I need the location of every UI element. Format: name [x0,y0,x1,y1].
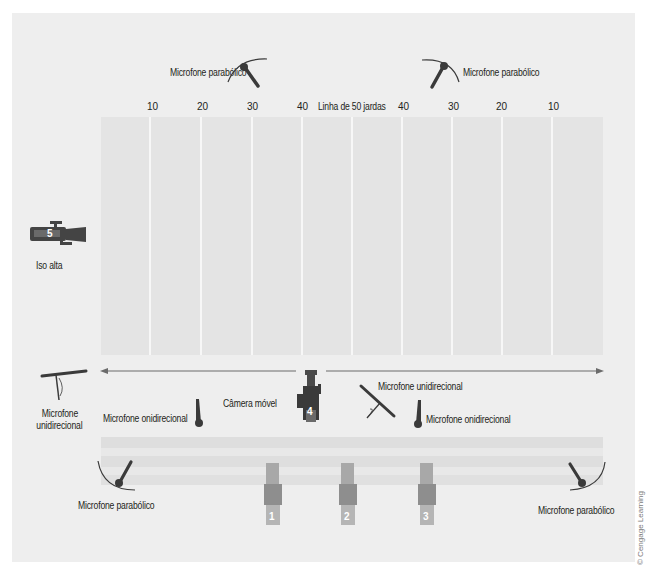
camera-number: 4 [307,407,313,417]
camera-number: 2 [344,512,350,522]
yard-line-10-right [551,117,553,355]
yard-label: 20 [496,101,507,113]
camera-1[interactable]: 1 [264,463,282,527]
unidirectional-mic-icon [38,368,90,408]
yard-line-40-right [401,117,403,355]
yard-line-10 [149,117,151,355]
yard-line-20 [200,117,202,355]
camera-4-mobile[interactable]: 4 [296,370,326,426]
label-parabolic-top-right: Microfone parabólico [463,67,539,79]
omnidirectional-mic-icon [412,399,426,431]
camera-number: 1 [269,512,275,522]
label-unidirectional-left-1: Microfone [35,408,85,420]
label-iso-high: Iso alta [36,260,62,272]
sideline-strip-2 [101,448,603,456]
yard-label: 40 [297,101,308,113]
camera-5-iso-high: 5 [30,220,90,250]
video-camera-icon [30,220,90,250]
label-omni-right: Microfone onidirecional [426,414,510,426]
label-mobile-camera: Câmera móvel [223,398,277,410]
label-unidirectional-left-2: unidirecional [31,420,88,432]
yard-label: 40 [398,101,409,113]
video-camera-icon [296,370,326,426]
omnidirectional-mic-icon [192,398,206,430]
yard-line-20-right [501,117,503,355]
yard-line-50 [351,117,353,355]
football-field [101,117,603,355]
label-omni-left: Microfone onidirecional [103,413,187,425]
camera-3[interactable]: 3 [418,463,436,527]
yard-label: 20 [197,101,208,113]
camera-2[interactable]: 2 [339,463,357,527]
copyright-credit: © Cengage Learning [636,491,645,565]
yard-line-40 [301,117,303,355]
yard-label: 30 [448,101,459,113]
parabolic-mic-icon [95,458,145,496]
camera-track-arrow [100,366,605,376]
camera-number: 5 [47,229,53,239]
yard-line-30 [251,117,253,355]
label-parabolic-bottom-right: Microfone parabólico [538,505,614,517]
yard-line-30-right [451,117,453,355]
camera-number: 3 [423,512,429,522]
yard-label: 30 [247,101,258,113]
unidirectional-mic-icon [358,383,398,423]
parabolic-mic-icon [560,458,610,496]
label-parabolic-bottom-left: Microfone parabólico [78,500,154,512]
yard-label-50: Linha de 50 jardas [318,101,386,113]
parabolic-mic-icon [225,55,285,95]
sideline-strip-1 [101,437,603,448]
yard-label: 10 [147,101,158,113]
yard-label: 10 [548,101,559,113]
